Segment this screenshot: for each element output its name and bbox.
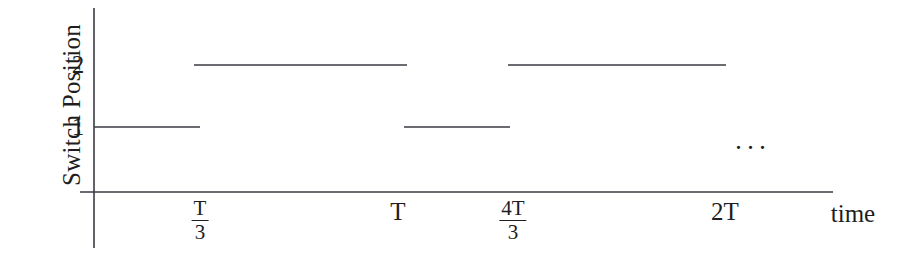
switch-position-timing-chart: Switch Position 2 1 T 3 T 4T 3 2T time ·…	[0, 0, 905, 264]
signal-segments-group	[94, 65, 726, 127]
x-tick-label-t-over-3: T 3	[192, 198, 209, 243]
x-tick-label-2t: 2T	[711, 198, 739, 226]
x-tick-label-4t-over-3: 4T 3	[499, 198, 526, 243]
x-tick-numerator: T	[192, 198, 209, 221]
y-tick-label-2: 2	[72, 51, 85, 79]
x-tick-denominator: 3	[499, 221, 526, 243]
y-axis-label: Switch Position	[58, 24, 86, 186]
x-tick-denominator: 3	[192, 221, 209, 243]
x-axis-label: time	[831, 200, 875, 228]
continuation-ellipsis: ···	[734, 133, 770, 164]
x-tick-numerator: 4T	[499, 198, 526, 221]
y-tick-label-1: 1	[72, 113, 85, 141]
x-tick-label-t: T	[390, 198, 405, 226]
